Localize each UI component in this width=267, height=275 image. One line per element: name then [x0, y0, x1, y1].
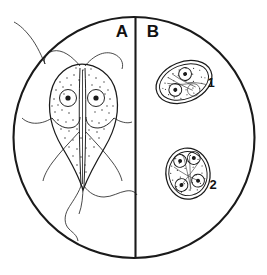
trophozoite-body-outline	[50, 64, 118, 190]
karyosome-left	[65, 95, 70, 100]
karyosome-right	[93, 95, 98, 100]
cyst-2	[163, 145, 214, 202]
cyst-2-outer-wall	[163, 145, 214, 202]
anterolateral-flagellum-left	[22, 118, 52, 123]
panel-label-b: B	[147, 22, 159, 41]
figure-root: A B	[0, 0, 267, 275]
giardia-illustration: A B	[0, 0, 267, 275]
trophozoite	[14, 22, 137, 241]
caudal-flagellum-accessory	[79, 186, 83, 214]
cyst-1-label: 1	[207, 75, 214, 90]
microscope-field-circle	[14, 17, 255, 258]
cyst-2-label: 2	[209, 177, 216, 192]
anterior-flagellum-left	[44, 51, 80, 66]
panel-label-a: A	[116, 22, 128, 41]
anterior-flagellum-long-left	[14, 22, 45, 64]
caudal-flagellum-left	[65, 186, 81, 241]
caudal-flagellum-right	[84, 186, 137, 197]
